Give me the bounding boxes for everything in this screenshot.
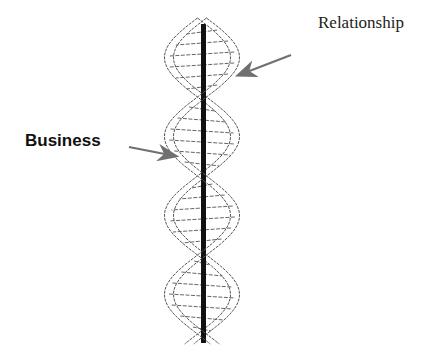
dna-helix-figure	[0, 0, 431, 360]
relationship-arrow	[239, 55, 291, 75]
business-label: Business	[25, 131, 101, 151]
diagram-canvas: Relationship Business	[0, 0, 431, 360]
relationship-label: Relationship	[318, 13, 404, 33]
relationship-strand-edge	[165, 18, 231, 344]
business-arrow	[129, 147, 175, 156]
central-axis-rod	[201, 24, 206, 343]
business-strand-edge	[165, 18, 231, 344]
